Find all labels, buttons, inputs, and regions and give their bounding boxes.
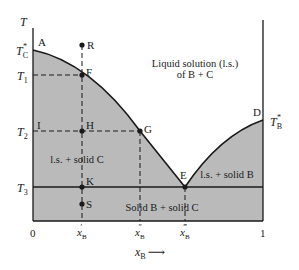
tick-tb: TB* bbox=[270, 113, 282, 131]
region-solid-bc: Solid B + solid C bbox=[125, 202, 198, 213]
tick-t2: T2 bbox=[17, 125, 28, 141]
x-axis-label: xB⟶ bbox=[134, 245, 165, 261]
tick-xb2: xB″ bbox=[134, 223, 145, 241]
two-phase-region bbox=[33, 50, 263, 221]
y-axis-label: T bbox=[20, 15, 28, 29]
point-s bbox=[79, 201, 84, 206]
point-h bbox=[79, 128, 84, 133]
tick-x-1: 1 bbox=[260, 227, 266, 239]
label-i: I bbox=[37, 119, 41, 131]
point-e bbox=[182, 184, 187, 189]
phase-diagram: T TC* T1 T2 T3 TB* 0 1 xB′ xB″ xB‴ xB⟶ A… bbox=[0, 0, 299, 270]
point-f bbox=[79, 72, 84, 77]
label-g: G bbox=[144, 123, 152, 135]
label-h: H bbox=[86, 119, 94, 131]
tick-tc: TC* bbox=[16, 42, 28, 60]
tick-xb1: xB′ bbox=[76, 223, 87, 241]
point-g bbox=[137, 128, 142, 133]
label-k: K bbox=[86, 175, 94, 187]
label-e: E bbox=[180, 169, 187, 181]
label-a: A bbox=[38, 36, 46, 48]
label-d: D bbox=[253, 106, 261, 118]
region-liquid-label-2: of B + C bbox=[177, 69, 214, 80]
tick-xb3: xB‴ bbox=[179, 223, 190, 241]
tick-t3: T3 bbox=[17, 181, 28, 197]
label-r: R bbox=[87, 39, 95, 51]
label-f: F bbox=[86, 66, 92, 78]
label-s: S bbox=[86, 198, 92, 210]
tick-t1: T1 bbox=[17, 69, 28, 85]
point-k bbox=[79, 184, 84, 189]
region-ls-solid-b: l.s. + solid B bbox=[200, 169, 253, 180]
tick-x-0: 0 bbox=[30, 227, 36, 239]
region-ls-solid-c: l.s. + solid C bbox=[50, 154, 103, 165]
point-r bbox=[79, 42, 84, 47]
